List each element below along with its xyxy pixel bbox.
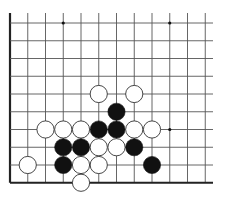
star-point-icon xyxy=(62,21,65,24)
black-stone xyxy=(55,139,72,156)
board-grid xyxy=(10,13,213,183)
black-stone xyxy=(90,121,107,138)
white-stone xyxy=(55,121,72,138)
white-stone xyxy=(72,156,89,173)
white-stone xyxy=(126,121,143,138)
black-stone xyxy=(126,139,143,156)
white-stone xyxy=(90,156,107,173)
black-stone xyxy=(72,139,89,156)
white-stone xyxy=(19,156,36,173)
black-stone xyxy=(143,156,160,173)
white-stone xyxy=(37,121,54,138)
white-stone xyxy=(108,139,125,156)
white-stone xyxy=(90,85,107,102)
white-stone xyxy=(72,174,89,191)
go-board[interactable] xyxy=(0,0,226,202)
black-stone xyxy=(108,121,125,138)
white-stone xyxy=(72,121,89,138)
white-stone xyxy=(143,121,160,138)
white-stone xyxy=(90,139,107,156)
white-stone xyxy=(126,85,143,102)
star-point-icon xyxy=(168,21,171,24)
star-point-icon xyxy=(168,128,171,131)
black-stone xyxy=(108,103,125,120)
stones-layer xyxy=(19,85,160,191)
black-stone xyxy=(55,156,72,173)
